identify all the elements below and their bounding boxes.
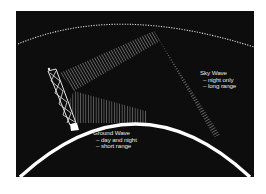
sky-wave-title: Sky Wave bbox=[200, 69, 227, 76]
sky-wave-label: Sky Wave – night only – long range bbox=[200, 70, 236, 90]
sky-wave-upward-beam bbox=[60, 31, 160, 91]
ground-wave-title: Ground Wave bbox=[93, 129, 130, 136]
ground-wave-label: Ground Wave – day and night – short rang… bbox=[93, 130, 137, 150]
ground-wave-beam bbox=[68, 91, 146, 123]
propagation-drawing bbox=[16, 11, 254, 177]
sky-wave-detail-2: – long range bbox=[200, 83, 236, 90]
ground-wave-detail-2: – short range bbox=[93, 143, 137, 150]
diagram-panel: Sky Wave – night only – long range Groun… bbox=[16, 11, 254, 177]
